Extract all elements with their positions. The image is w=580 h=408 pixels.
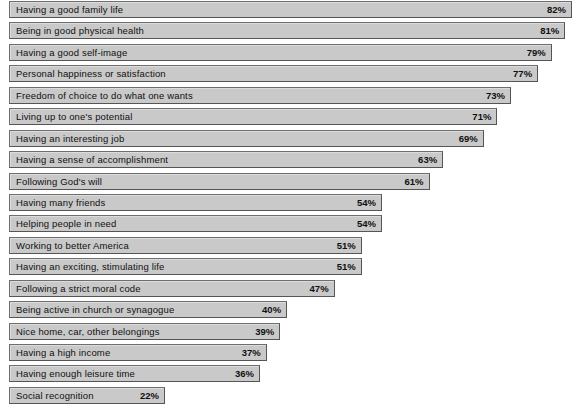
bar: Having many friends54% [9,194,382,211]
bar-category-label: Personal happiness or satisfaction [10,66,166,81]
bar-category-label: Social recognition [10,388,94,403]
bar-row: Having an exciting, stimulating life51% [0,258,580,279]
bar: Following God's will61% [9,173,430,190]
bar-category-label: Freedom of choice to do what one wants [10,88,193,103]
bar: Following a strict moral code47% [9,280,335,297]
bar-row: Being in good physical health81% [0,22,580,43]
bar-row: Personal happiness or satisfaction77% [0,65,580,86]
bar-value-label: 61% [405,174,429,189]
bar-value-label: 77% [513,66,537,81]
bar: Being in good physical health81% [9,22,565,39]
bar: Having an interesting job69% [9,130,484,147]
bar: Social recognition22% [9,387,165,404]
bar-value-label: 63% [418,152,442,167]
bar: Being active in church or synagogue40% [9,301,287,318]
bar-category-label: Nice home, car, other belongings [10,324,160,339]
bar-chart: Having a good family life82%Being in goo… [0,0,580,408]
bar-value-label: 54% [357,195,381,210]
bar: Having a sense of accomplishment63% [9,151,443,168]
bar-category-label: Helping people in need [10,216,117,231]
bar-row: Having a high income37% [0,344,580,365]
bar-value-label: 71% [472,109,496,124]
bar-value-label: 51% [337,259,361,274]
bar-value-label: 37% [242,345,266,360]
bar: Working to better America51% [9,237,362,254]
bar-value-label: 73% [486,88,510,103]
bar: Nice home, car, other belongings39% [9,323,280,340]
bar-category-label: Following a strict moral code [10,281,141,296]
bar-category-label: Having a high income [10,345,110,360]
bar-category-label: Working to better America [10,238,129,253]
bar-row: Having an interesting job69% [0,130,580,151]
bar-value-label: 81% [540,23,564,38]
bar-value-label: 79% [527,45,551,60]
bar: Personal happiness or satisfaction77% [9,65,538,82]
bar-value-label: 47% [310,281,334,296]
bar-row: Having a good self-image79% [0,44,580,65]
bar-row: Helping people in need54% [0,215,580,236]
bar-row: Being active in church or synagogue40% [0,301,580,322]
bar-row: Having a good family life82% [0,1,580,22]
bar-value-label: 36% [235,366,259,381]
bar-category-label: Having an exciting, stimulating life [10,259,165,274]
bar-category-label: Being in good physical health [10,23,144,38]
bar-value-label: 69% [459,131,483,146]
bar-row: Having a sense of accomplishment63% [0,151,580,172]
bar-row: Living up to one's potential71% [0,108,580,129]
bar: Having a high income37% [9,344,267,361]
bar-value-label: 51% [337,238,361,253]
bar-row: Working to better America51% [0,237,580,258]
bar: Having an exciting, stimulating life51% [9,258,362,275]
bar-category-label: Having an interesting job [10,131,124,146]
bar: Living up to one's potential71% [9,108,497,125]
bar: Helping people in need54% [9,215,382,232]
bar-row: Nice home, car, other belongings39% [0,323,580,344]
bar-value-label: 54% [357,216,381,231]
bar-row: Freedom of choice to do what one wants73… [0,87,580,108]
bar-row: Social recognition22% [0,387,580,408]
bar: Having enough leisure time36% [9,365,260,382]
bar-value-label: 39% [255,324,279,339]
bar: Having a good self-image79% [9,44,552,61]
bar-category-label: Having enough leisure time [10,366,135,381]
bar-category-label: Having a good self-image [10,45,127,60]
bar-category-label: Having a sense of accomplishment [10,152,168,167]
bar-value-label: 40% [262,302,286,317]
bar-value-label: 22% [140,388,164,403]
bar-row: Having enough leisure time36% [0,365,580,386]
bar-value-label: 82% [547,2,571,17]
bar-category-label: Having many friends [10,195,105,210]
bar: Freedom of choice to do what one wants73… [9,87,511,104]
bar-row: Following a strict moral code47% [0,280,580,301]
bar-row: Following God's will61% [0,173,580,194]
bar: Having a good family life82% [9,1,572,18]
bar-row: Having many friends54% [0,194,580,215]
bar-row-list: Having a good family life82%Being in goo… [0,1,580,408]
bar-category-label: Being active in church or synagogue [10,302,174,317]
bar-category-label: Having a good family life [10,2,123,17]
bar-category-label: Following God's will [10,174,102,189]
bar-category-label: Living up to one's potential [10,109,132,124]
